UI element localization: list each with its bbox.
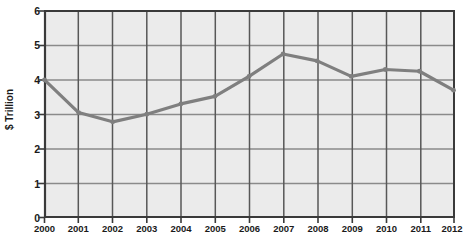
data-point-marker	[451, 88, 456, 93]
data-point-marker	[247, 74, 252, 79]
data-point-marker	[76, 110, 81, 115]
data-point-marker	[213, 94, 218, 99]
data-point-marker	[315, 59, 320, 64]
x-tick-label: 2012	[432, 224, 471, 234]
data-point-marker	[110, 119, 115, 124]
data-point-marker	[349, 74, 354, 79]
data-point-marker	[42, 77, 47, 82]
data-point-marker	[383, 67, 388, 72]
line-chart: Hoovers A D&B Company $ Trillion 6 5 4 3…	[0, 0, 471, 245]
data-point-marker	[144, 112, 149, 117]
data-point-marker	[178, 102, 183, 107]
plot-area	[0, 0, 471, 245]
data-point-marker	[417, 69, 422, 74]
data-point-marker	[281, 52, 286, 57]
